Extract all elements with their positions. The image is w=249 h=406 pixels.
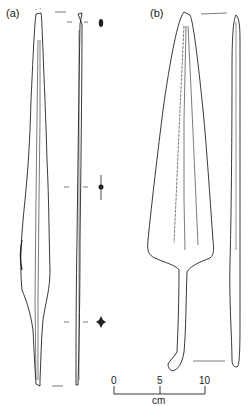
- section-markers: [52, 12, 88, 386]
- scale-tick-0: 0: [111, 375, 117, 386]
- scale-unit: cm: [152, 395, 165, 406]
- spearhead-b-face: [148, 12, 214, 371]
- cross-sections: [96, 19, 106, 328]
- spearhead-b-side: [193, 13, 240, 367]
- spearhead-a-face: [21, 8, 51, 386]
- drawing-canvas: 0 5 10 cm: [0, 0, 249, 406]
- scale-tick-5: 5: [157, 375, 163, 386]
- spearhead-a-side: [76, 13, 82, 385]
- scale-tick-10: 10: [199, 375, 211, 386]
- scale-bar: [114, 386, 205, 394]
